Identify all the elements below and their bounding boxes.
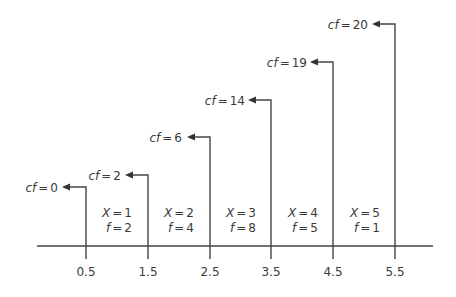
arrow-left-icon bbox=[248, 97, 256, 104]
boundary-value: 2.5 bbox=[200, 265, 219, 279]
boundary-value: 0.5 bbox=[76, 265, 95, 279]
boundary-3-5: cf=14 3.5 bbox=[205, 94, 281, 280]
class-label-x2: X=2 f=4 bbox=[163, 206, 194, 235]
class-label-x3: X=3 f=8 bbox=[225, 206, 256, 235]
class-x-value: X=5 bbox=[349, 206, 380, 220]
class-label-x5: X=5 f=1 bbox=[349, 206, 380, 235]
cf-label: cf=2 bbox=[88, 169, 121, 183]
arrow-left-icon bbox=[310, 59, 318, 66]
class-f-value: f=2 bbox=[106, 221, 132, 235]
boundary-5-5: cf=20 5.5 bbox=[328, 18, 405, 280]
step-line bbox=[194, 137, 210, 259]
class-label-x1: X=1 f=2 bbox=[101, 206, 132, 235]
arrow-left-icon bbox=[372, 21, 380, 28]
cf-label: cf=0 bbox=[25, 181, 58, 195]
step-line bbox=[255, 100, 271, 259]
cf-label: cf=20 bbox=[328, 18, 368, 32]
arrow-left-icon bbox=[125, 172, 133, 179]
step-line bbox=[317, 62, 333, 259]
boundary-value: 3.5 bbox=[261, 265, 280, 279]
step-line bbox=[379, 24, 395, 259]
boundary-value: 4.5 bbox=[323, 265, 342, 279]
step-line bbox=[69, 187, 86, 259]
cumulative-frequency-diagram: cf=0 0.5 cf=2 1.5 cf=6 2.5 cf=14 3.5 cf=… bbox=[0, 0, 456, 297]
class-label-x4: X=4 f=5 bbox=[287, 206, 318, 235]
boundary-2-5: cf=6 2.5 bbox=[149, 131, 219, 280]
class-f-value: f=5 bbox=[292, 221, 318, 235]
arrow-left-icon bbox=[187, 134, 195, 141]
class-f-value: f=1 bbox=[354, 221, 380, 235]
class-x-value: X=3 bbox=[225, 206, 256, 220]
class-x-value: X=2 bbox=[163, 206, 194, 220]
boundary-value: 1.5 bbox=[138, 265, 157, 279]
class-x-value: X=1 bbox=[101, 206, 132, 220]
class-x-value: X=4 bbox=[287, 206, 318, 220]
cf-label: cf=6 bbox=[149, 131, 182, 145]
class-f-value: f=8 bbox=[230, 221, 256, 235]
arrow-left-icon bbox=[62, 184, 70, 191]
cf-label: cf=19 bbox=[267, 56, 307, 70]
boundary-1-5: cf=2 1.5 bbox=[88, 169, 157, 280]
class-f-value: f=4 bbox=[168, 221, 194, 235]
boundary-value: 5.5 bbox=[385, 265, 404, 279]
boundary-0-5: cf=0 0.5 bbox=[25, 181, 95, 280]
cf-label: cf=14 bbox=[205, 94, 245, 108]
